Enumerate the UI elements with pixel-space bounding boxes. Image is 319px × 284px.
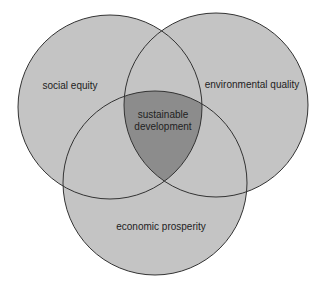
label-sustainable: sustainable xyxy=(138,109,189,120)
label-development: development xyxy=(134,121,191,132)
label-economic-prosperity: economic prosperity xyxy=(116,221,205,232)
label-environmental-quality: environmental quality xyxy=(205,79,300,90)
label-social-equity: social equity xyxy=(42,80,97,91)
venn-diagram: social equity environmental quality econ… xyxy=(0,0,319,284)
